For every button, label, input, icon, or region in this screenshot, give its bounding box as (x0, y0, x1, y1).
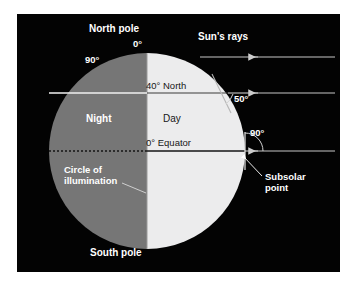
equator-label: 0° Equator (146, 138, 191, 148)
day-label: Day (163, 114, 181, 125)
north-pole-label: North pole (89, 24, 139, 35)
south-pole-label: South pole (90, 248, 142, 259)
subsolar-point-label-line2: point (265, 183, 288, 193)
subsolar-leader-line (243, 156, 262, 176)
circle-illumination-label-line1: Circle of (64, 165, 102, 175)
ninety-degree-night-label: 90° (85, 55, 99, 65)
figure-root: North pole 0° 90° Sun's rays 40° North 5… (0, 0, 350, 282)
circle-illumination-label-line2: illumination (64, 176, 117, 186)
forty-north-label: 40° North (146, 81, 186, 91)
subsolar-point-label-line1: Subsolar (265, 172, 306, 182)
suns-rays-label: Sun's rays (198, 32, 248, 43)
ninety-degree-subsolar-label: 90° (250, 128, 264, 138)
night-label: Night (86, 114, 112, 125)
fifty-degree-label: 50° (234, 94, 248, 104)
north-pole-degree-label: 0° (133, 39, 142, 49)
